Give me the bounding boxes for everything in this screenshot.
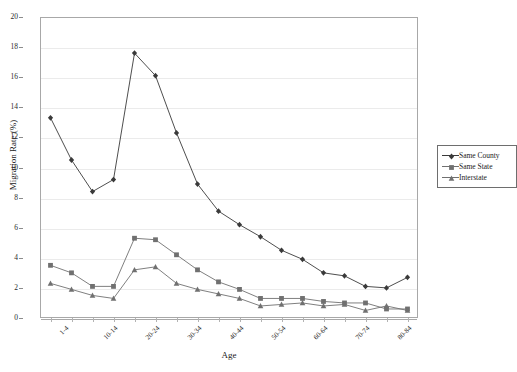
legend-item-interstate[interactable]: Interstate <box>442 172 513 183</box>
y-axis-tick-mark <box>19 318 23 319</box>
y-axis-tick-mark <box>19 228 23 229</box>
y-axis-tick-label: 2 <box>14 284 18 292</box>
gridline <box>41 229 417 230</box>
legend-label: Interstate <box>459 172 487 183</box>
y-axis-tick-label: 6 <box>14 224 18 232</box>
y-axis-tick-mark <box>19 47 23 48</box>
data-point-marker <box>449 153 454 159</box>
gridline <box>41 169 417 170</box>
gridline <box>41 289 417 290</box>
y-axis-tick-mark <box>19 17 23 18</box>
x-axis-tick-label: 1-4 <box>58 325 70 337</box>
y-axis-tick-mark <box>19 107 23 108</box>
gridline <box>41 78 417 79</box>
x-axis-tick-label: 80-84 <box>396 325 413 342</box>
x-axis-tick-label: 70-74 <box>354 325 371 342</box>
x-axis-tick-mark <box>324 318 325 322</box>
x-axis-tick-mark <box>408 318 409 322</box>
x-axis-tick-mark <box>72 318 73 322</box>
chart-legend: Same CountySame StateInterstate <box>437 145 517 188</box>
x-axis-tick-mark <box>135 318 136 322</box>
y-axis-tick-label: 14 <box>11 103 19 111</box>
gridline <box>41 199 417 200</box>
x-axis-tick-mark <box>366 318 367 322</box>
x-axis-tick-label: 10-14 <box>102 325 119 342</box>
gridline <box>41 259 417 260</box>
y-axis-tick-label: 0 <box>14 314 18 322</box>
x-axis-title: Age <box>40 350 418 360</box>
x-axis-tick-mark <box>177 318 178 322</box>
y-axis-tick-mark <box>19 168 23 169</box>
x-axis-tick-label: 40-44 <box>228 325 245 342</box>
legend-item-same-state[interactable]: Same State <box>442 161 513 172</box>
legend-marker-square-icon <box>442 161 459 172</box>
data-point-marker <box>449 175 455 180</box>
x-axis-tick-mark <box>219 318 220 322</box>
plot-area <box>40 17 418 318</box>
x-axis-tick-label: 30-34 <box>186 325 203 342</box>
x-axis-tick-mark <box>282 318 283 322</box>
y-axis-tick-label: 12 <box>11 134 19 142</box>
x-axis-tick-mark <box>345 318 346 322</box>
y-axis-tick-label: 8 <box>14 194 18 202</box>
y-axis-tick-mark <box>19 198 23 199</box>
x-axis-tick-label: 60-64 <box>312 325 329 342</box>
legend-item-same-county[interactable]: Same County <box>442 150 513 161</box>
x-axis-tick-mark <box>387 318 388 322</box>
x-axis-tick-mark <box>51 318 52 322</box>
x-axis-tick-mark <box>156 318 157 322</box>
gridline <box>41 108 417 109</box>
x-axis-tick-mark <box>303 318 304 322</box>
x-axis: 1-410-1420-2430-3440-4450-5460-6470-7480… <box>40 318 418 372</box>
x-axis-tick-mark <box>114 318 115 322</box>
legend-label: Same County <box>459 150 500 161</box>
legend-marker-diamond-icon <box>442 150 459 161</box>
y-axis-tick-mark <box>19 258 23 259</box>
y-axis-tick-label: 16 <box>11 73 19 81</box>
x-axis-tick-mark <box>261 318 262 322</box>
y-axis-tick-label: 10 <box>11 164 19 172</box>
x-axis-tick-mark <box>198 318 199 322</box>
x-axis-tick-mark <box>93 318 94 322</box>
y-axis-tick-label: 20 <box>11 13 19 21</box>
gridline <box>41 48 417 49</box>
y-axis-tick-mark <box>19 77 23 78</box>
y-axis-tick-mark <box>19 137 23 138</box>
data-point-marker <box>449 165 454 170</box>
y-axis-tick-mark <box>19 288 23 289</box>
x-axis-tick-label: 50-54 <box>270 325 287 342</box>
x-axis-tick-label: 20-24 <box>144 325 161 342</box>
y-axis-tick-label: 4 <box>14 254 18 262</box>
legend-marker-triangle-icon <box>442 172 459 183</box>
y-axis: Migration Rate (%) 02468101214161820 <box>0 0 40 372</box>
gridline <box>41 138 417 139</box>
x-axis-tick-mark <box>240 318 241 322</box>
chart-container: Migration Rate (%) 02468101214161820 1-4… <box>0 0 517 372</box>
y-axis-tick-label: 18 <box>11 43 19 51</box>
legend-label: Same State <box>459 161 493 172</box>
